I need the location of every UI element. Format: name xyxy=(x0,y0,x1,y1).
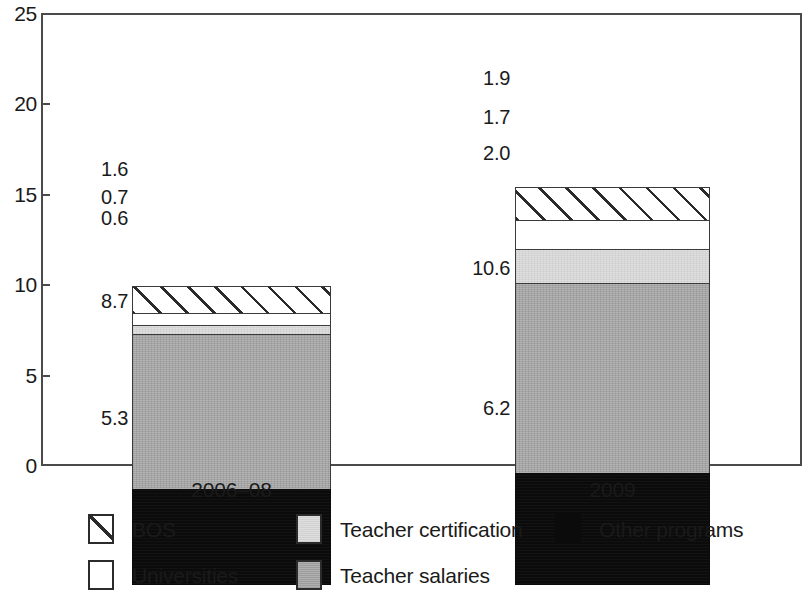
value-label-teacher-certification-2009: 2.0 xyxy=(440,143,510,163)
value-label-other-programs-2006-08: 5.3 xyxy=(68,408,128,428)
y-tick-mark-20 xyxy=(41,103,50,105)
value-label-bos-2006-08: 1.6 xyxy=(68,159,128,179)
y-tick-mark-5 xyxy=(41,375,50,377)
legend-swatch-other-programs-icon xyxy=(555,514,581,544)
legend-item-universities[interactable]: Universities xyxy=(88,558,238,591)
value-label-other-programs-2009: 6.2 xyxy=(440,398,510,418)
legend-item-teacher-certification[interactable]: Teacher certification xyxy=(296,512,523,546)
stacked-bar-chart: 25 20 15 10 5 0 1.6 0.7 0.6 8.7 5.3 1.9 … xyxy=(0,0,806,591)
y-tick-label-10: 10 xyxy=(3,274,37,295)
y-tick-label-15: 15 xyxy=(3,184,37,205)
x-axis-label-2009: 2009 xyxy=(515,479,710,500)
y-tick-label-5: 5 xyxy=(3,365,37,386)
legend-swatch-universities-icon xyxy=(88,560,114,590)
legend-swatch-teacher-certification-icon xyxy=(296,514,322,544)
y-tick-mark-15 xyxy=(41,194,50,196)
legend-item-bos[interactable]: BOS xyxy=(88,512,176,546)
legend-label-bos: BOS xyxy=(132,519,176,540)
value-label-teacher-salaries-2006-08: 8.7 xyxy=(68,291,128,311)
bar-segment-universities-2009[interactable] xyxy=(515,220,710,251)
legend-label-teacher-certification: Teacher certification xyxy=(340,519,523,540)
value-label-bos-2009: 1.9 xyxy=(440,68,510,88)
legend: BOS Teacher certification Other programs… xyxy=(0,500,806,591)
legend-swatch-teacher-salaries-icon xyxy=(296,560,322,590)
legend-label-universities: Universities xyxy=(132,565,238,586)
value-label-universities-2009: 1.7 xyxy=(440,107,510,127)
value-label-teacher-salaries-2009: 10.6 xyxy=(430,258,510,278)
value-label-teacher-certification-2006-08: 0.6 xyxy=(68,208,128,228)
bar-segment-teacher-salaries-2009[interactable] xyxy=(515,283,710,474)
value-label-universities-2006-08: 0.7 xyxy=(68,187,128,207)
y-tick-label-25: 25 xyxy=(3,3,37,24)
y-tick-label-20: 20 xyxy=(3,93,37,114)
y-tick-mark-10 xyxy=(41,284,50,286)
bar-segment-teacher-salaries-2006-08[interactable] xyxy=(132,334,331,491)
legend-label-other-programs: Other programs xyxy=(599,519,743,540)
legend-swatch-bos-icon xyxy=(88,514,114,544)
legend-label-teacher-salaries: Teacher salaries xyxy=(340,565,490,586)
legend-item-teacher-salaries[interactable]: Teacher salaries xyxy=(296,558,490,591)
y-tick-label-0: 0 xyxy=(3,455,37,476)
bar-segment-bos-2009[interactable] xyxy=(515,187,710,221)
bar-segment-bos-2006-08[interactable] xyxy=(132,286,331,315)
x-axis-label-2006-08: 2006–08 xyxy=(132,479,331,500)
bar-segment-teacher-certification-2009[interactable] xyxy=(515,249,710,285)
legend-item-other-programs[interactable]: Other programs xyxy=(555,512,743,546)
